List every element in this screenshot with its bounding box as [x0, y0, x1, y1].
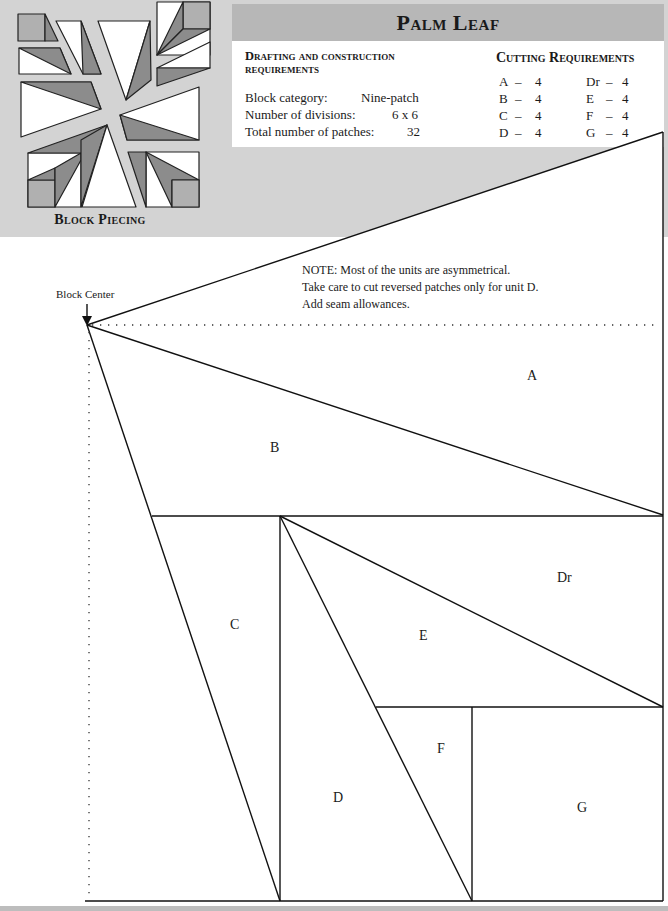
patch-label-a: A: [527, 368, 537, 384]
patch-label-dr: Dr: [557, 570, 572, 586]
patch-label-f: F: [437, 741, 445, 757]
patch-label-e: E: [419, 628, 428, 644]
pattern-template-diagram: [0, 0, 668, 911]
patch-label-b: B: [270, 440, 279, 456]
patch-label-g: G: [577, 800, 587, 816]
bottom-border: [0, 906, 668, 911]
note-text: NOTE: Most of the units are asymmetrical…: [302, 262, 538, 313]
patch-label-c: C: [230, 617, 239, 633]
block-center-label: Block Center: [56, 288, 114, 300]
patch-label-d: D: [333, 790, 343, 806]
